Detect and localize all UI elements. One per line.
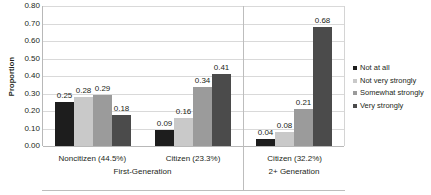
- bar-value-label: 0.16: [176, 108, 192, 116]
- bar-column: 0.25: [55, 6, 74, 146]
- bar-value-label: 0.41: [214, 64, 230, 72]
- legend-swatch-icon: [353, 79, 357, 83]
- bar-value-label: 0.08: [277, 122, 293, 130]
- bar[interactable]: [174, 118, 193, 146]
- bar-value-label: 0.68: [315, 17, 331, 25]
- category-label: Noncitizen (44.5%): [42, 154, 143, 163]
- bar[interactable]: [93, 95, 112, 146]
- category-label: Citizen (32.2%): [244, 154, 345, 163]
- bar-value-label: 0.21: [296, 99, 312, 107]
- bar-value-label: 0.04: [258, 129, 274, 137]
- bar[interactable]: [112, 115, 131, 147]
- legend-item[interactable]: Somewhat strongly: [353, 89, 431, 97]
- legend-item-label: Somewhat strongly: [360, 89, 424, 97]
- legend-swatch-icon: [353, 91, 357, 95]
- bar-groups: 0.250.280.290.180.090.160.340.410.040.08…: [43, 6, 344, 146]
- bar[interactable]: [256, 139, 275, 146]
- bar-group: 0.250.280.290.18: [43, 6, 143, 146]
- bar-group: 0.090.160.340.41: [143, 6, 244, 146]
- y-axis-tick-label: 0.60: [6, 37, 40, 45]
- bar-chart: Proportion 0.800.700.600.500.400.300.200…: [0, 0, 431, 195]
- bar-column: 0.28: [74, 6, 93, 146]
- bar[interactable]: [155, 130, 174, 146]
- y-axis-tick-label: 0.70: [6, 20, 40, 28]
- bar[interactable]: [193, 87, 212, 147]
- plot-area: 0.250.280.290.180.090.160.340.410.040.08…: [42, 6, 345, 146]
- y-axis-tick-label: 0.30: [6, 90, 40, 98]
- bar-column: 0.04: [256, 6, 275, 146]
- y-axis-tick-labels: 0.800.700.600.500.400.300.200.100.00: [6, 0, 40, 151]
- legend-item-label: Not at all: [360, 64, 390, 72]
- bar-group: 0.040.080.210.68: [244, 6, 344, 146]
- bar-column: 0.29: [93, 6, 112, 146]
- legend-item[interactable]: Not very strongly: [353, 77, 431, 85]
- bar-column: 0.08: [275, 6, 294, 146]
- bar-value-label: 0.29: [95, 85, 111, 93]
- legend-swatch-icon: [353, 104, 357, 108]
- bar-column: 0.34: [193, 6, 212, 146]
- y-axis-tick-label: 0.50: [6, 55, 40, 63]
- bar-set: 0.090.160.340.41: [155, 6, 231, 146]
- legend: Not at allNot very stronglySomewhat stro…: [353, 64, 431, 114]
- generation-band-first: First-Generation: [42, 167, 243, 190]
- bar-column: 0.68: [313, 6, 332, 146]
- bar-value-label: 0.18: [114, 105, 130, 113]
- bar[interactable]: [55, 102, 74, 146]
- legend-swatch-icon: [353, 66, 357, 70]
- generation-band-label: 2+ Generation: [243, 167, 345, 176]
- generation-band-label: First-Generation: [42, 167, 243, 176]
- bar[interactable]: [74, 97, 93, 146]
- bar-value-label: 0.25: [57, 92, 73, 100]
- bar-value-label: 0.28: [76, 87, 92, 95]
- legend-item[interactable]: Very strongly: [353, 102, 431, 110]
- category-label: Citizen (23.3%): [143, 154, 244, 163]
- legend-item-label: Very strongly: [360, 102, 403, 110]
- bar-column: 0.16: [174, 6, 193, 146]
- bar[interactable]: [212, 74, 231, 146]
- bar[interactable]: [294, 109, 313, 146]
- bar-column: 0.21: [294, 6, 313, 146]
- bar-column: 0.18: [112, 6, 131, 146]
- bar[interactable]: [275, 132, 294, 146]
- legend-item-label: Not very strongly: [360, 77, 416, 85]
- y-axis-tick-label: 0.40: [6, 72, 40, 80]
- axis-bottom-rule: [42, 190, 345, 191]
- bar-column: 0.41: [212, 6, 231, 146]
- y-axis-tick-label: 0.80: [6, 2, 40, 10]
- bar-set: 0.040.080.210.68: [256, 6, 332, 146]
- bar-set: 0.250.280.290.18: [55, 6, 131, 146]
- bar-column: 0.09: [155, 6, 174, 146]
- y-axis-tick-label: 0.00: [6, 142, 40, 150]
- y-axis-tick-label: 0.10: [6, 125, 40, 133]
- bar[interactable]: [313, 27, 332, 146]
- generation-band-second: 2+ Generation: [243, 167, 345, 190]
- bar-value-label: 0.09: [157, 120, 173, 128]
- legend-item[interactable]: Not at all: [353, 64, 431, 72]
- y-axis-tick-label: 0.20: [6, 107, 40, 115]
- bar-value-label: 0.34: [195, 77, 211, 85]
